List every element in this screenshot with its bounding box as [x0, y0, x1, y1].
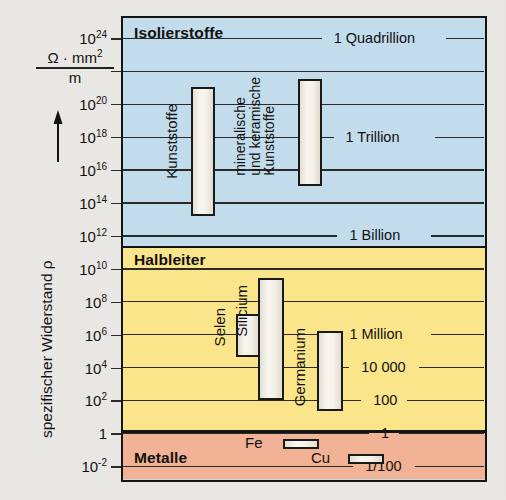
y-axis-tick	[111, 104, 121, 105]
gridline	[431, 235, 484, 236]
value-label: 1	[381, 425, 389, 441]
y-axis-tick	[111, 236, 121, 237]
value-label: 1 Quadrillion	[334, 30, 415, 46]
y-axis-tick	[111, 368, 121, 369]
bar-label-germanium: Germanium	[291, 328, 308, 406]
gridline	[446, 38, 484, 39]
y-axis-label: 1	[49, 425, 107, 442]
y-axis-tick	[111, 203, 121, 204]
gridline	[415, 466, 484, 467]
bar-kunststoffe	[191, 87, 215, 215]
band-title-metalle: Metalle	[134, 449, 187, 467]
value-label: 1 Trillion	[346, 129, 400, 145]
y-axis-tick	[111, 302, 121, 303]
y-axis-tick	[111, 137, 121, 138]
gridline	[399, 433, 484, 434]
y-axis-label: 108	[49, 293, 107, 311]
gridline	[435, 137, 485, 138]
gridline	[123, 71, 484, 72]
bar-label-silicium: Silicium	[233, 285, 250, 337]
gridline	[419, 367, 484, 368]
axis-unit-numerator-exponent: 2	[97, 48, 103, 59]
y-axis-label: 1016	[49, 161, 107, 179]
gridline	[123, 235, 337, 236]
value-label: 1 Million	[349, 326, 402, 342]
y-axis-label: 104	[49, 359, 107, 377]
gridline	[123, 301, 484, 302]
band-title-isolierstoffe: Isolierstoffe	[134, 24, 223, 42]
y-axis-label: 1014	[49, 194, 107, 212]
gridline	[431, 334, 484, 335]
y-axis-label: 1012	[49, 227, 107, 245]
axis-unit-denominator: m	[36, 69, 114, 86]
plot-area: 1 Quadrillion1 Trillion1 Billion1 Millio…	[121, 16, 487, 482]
bar-germanium	[317, 331, 343, 412]
y-axis-tick	[111, 269, 121, 270]
y-axis-tick	[111, 71, 121, 72]
y-axis-label: 1024	[49, 29, 107, 47]
y-axis-tick	[111, 335, 121, 336]
band-separator	[123, 246, 485, 249]
y-axis-label: 1018	[49, 128, 107, 146]
bar-label-selen: Selen	[211, 308, 228, 346]
bar-fe	[283, 439, 319, 449]
bar-silicium	[258, 278, 284, 400]
y-axis-tick	[111, 38, 121, 39]
y-axis-tick	[111, 433, 121, 434]
y-axis-label: 1020	[49, 95, 107, 113]
bar-label-mineralische: mineralischeund keramischeKunststoffe	[233, 77, 277, 176]
bar-label-fe: Fe	[245, 434, 263, 451]
bar-mineralische	[298, 79, 322, 186]
y-axis-tick	[111, 400, 121, 401]
y-axis-tick	[111, 466, 121, 467]
value-label: 1 Billion	[349, 227, 400, 243]
bar-label-cu: Cu	[311, 449, 330, 466]
value-label: 10 000	[361, 359, 405, 375]
band-separator	[123, 430, 485, 433]
value-label: 100	[373, 392, 397, 408]
gridline	[123, 367, 349, 368]
gridline	[123, 202, 484, 203]
y-axis-label: 10-2	[49, 457, 107, 475]
axis-unit: Ω · mm2 m	[36, 48, 114, 86]
y-axis-label: 102	[49, 391, 107, 409]
gridline	[407, 400, 484, 401]
y-axis-label: 106	[49, 326, 107, 344]
band-title-halbleiter: Halbleiter	[134, 251, 206, 269]
y-axis-tick	[111, 170, 121, 171]
bar-label-kunststoffe: Kunststoffe	[163, 104, 180, 179]
axis-unit-numerator: Ω · mm	[47, 49, 97, 66]
y-axis-label: 1010	[49, 260, 107, 278]
bar-cu	[348, 454, 384, 464]
figure-root: Ω · mm2 m spezifischer Widerstand ρ 1 Qu…	[0, 0, 506, 500]
